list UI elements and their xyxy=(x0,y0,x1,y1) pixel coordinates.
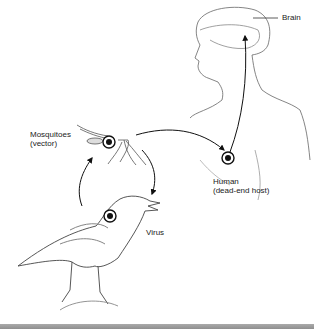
virus-marker-human xyxy=(222,152,234,164)
human-label: Human (dead-end host) xyxy=(213,177,269,195)
arrow-human-to-brain xyxy=(230,36,246,152)
bottom-bar xyxy=(0,324,314,329)
arrow-bird-to-mosquito xyxy=(79,158,92,206)
virus-marker-mosquito xyxy=(103,136,115,148)
brain-label: Brain xyxy=(282,13,301,22)
virus-label: Virus xyxy=(146,228,164,237)
mosquitoes-label: Mosquitoes (vector) xyxy=(30,130,71,148)
bird-figure xyxy=(18,196,160,310)
diagram-canvas xyxy=(0,0,314,329)
virus-marker-bird xyxy=(104,210,116,222)
human-figure xyxy=(190,7,310,200)
arrow-mosquito-to-human xyxy=(136,130,224,150)
arrow-mosquito-to-bird xyxy=(142,150,155,194)
